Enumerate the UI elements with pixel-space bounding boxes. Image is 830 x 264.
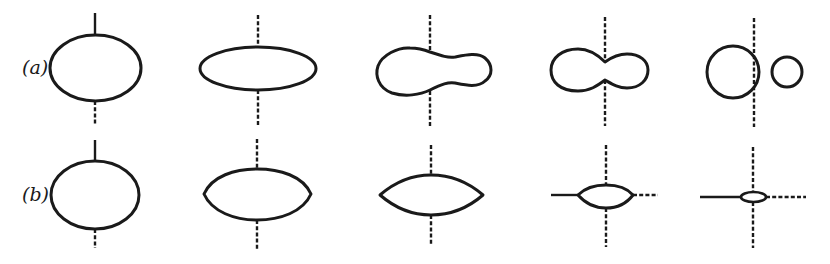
stage-b4-lens-with-lines xyxy=(551,145,658,247)
stage-a2-ellipsoid xyxy=(200,15,316,126)
stage-a3-neck xyxy=(377,15,491,126)
stage-a5-two-fragments xyxy=(707,18,802,127)
stage-b3-pointed-lens xyxy=(380,145,483,246)
small-fragment xyxy=(772,57,802,87)
fission-diagram: (a) (b) xyxy=(0,0,830,264)
stage-b1-sphere xyxy=(51,140,139,248)
row-label-a: (a) xyxy=(22,56,48,78)
row-b xyxy=(51,139,806,249)
row-a xyxy=(50,13,802,127)
stage-a1-sphere xyxy=(50,13,141,125)
stage-b2-lens xyxy=(204,139,311,249)
large-fragment xyxy=(707,46,759,98)
stage-a4-deep-neck xyxy=(551,17,648,126)
row-label-b: (b) xyxy=(22,183,49,205)
stage-b5-tiny-lens-with-lines xyxy=(700,147,806,248)
